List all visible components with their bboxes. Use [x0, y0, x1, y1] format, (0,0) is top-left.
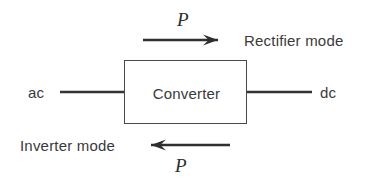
- ac-terminal-label: ac: [28, 85, 44, 100]
- rectifier-mode-label: Rectifier mode: [244, 33, 344, 48]
- converter-block: Converter: [124, 60, 247, 124]
- converter-block-label: Converter: [125, 61, 248, 125]
- rectifier-power-symbol: P: [177, 10, 189, 29]
- converter-mode-diagram: Converter ac dc P Rectifier mode Inverte…: [0, 0, 367, 183]
- inverter-power-symbol: P: [175, 156, 187, 175]
- inverter-mode-label: Inverter mode: [20, 138, 115, 153]
- dc-terminal-label: dc: [320, 85, 336, 100]
